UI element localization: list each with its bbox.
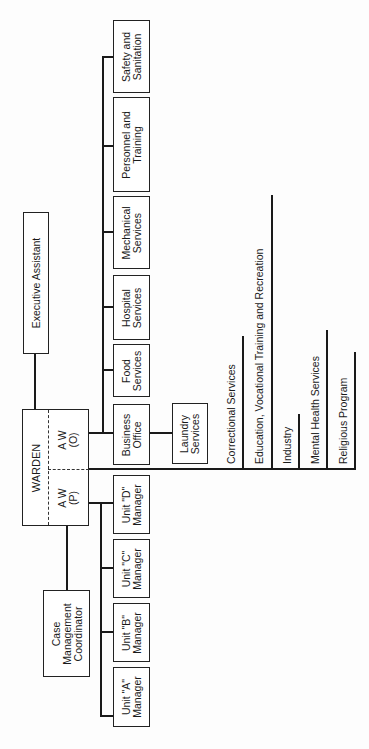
safety-sanitation-label: Safety and Sanitation: [121, 31, 143, 81]
unit-c-manager-box[interactable]: Unit "C" Manager: [113, 539, 150, 598]
aw-o-label: A W (O): [57, 430, 79, 449]
case-management-label: Case Management Coordinator: [50, 603, 83, 664]
mechanical-services-box[interactable]: Mechanical Services: [113, 196, 150, 269]
religious-line: [354, 352, 356, 470]
unit-c-label: Unit "C" Manager: [121, 548, 143, 589]
personnel-training-label: Personnel and Training: [121, 111, 143, 179]
unit-spine: [100, 502, 102, 717]
case-management-box[interactable]: Case Management Coordinator: [43, 590, 90, 677]
mental-health-line: [326, 330, 328, 470]
connector-exec: [34, 353, 36, 410]
hospital-services-label: Hospital Services: [121, 287, 143, 327]
executive-assistant-box[interactable]: Executive Assistant: [23, 212, 49, 354]
industry-label[interactable]: Industry: [282, 427, 293, 464]
business-office-box[interactable]: Business Office: [113, 404, 150, 465]
laundry-services-label: Laundry Services: [179, 413, 201, 453]
correctional-services-label[interactable]: Correctional Services: [226, 364, 237, 464]
laundry-services-box[interactable]: Laundry Services: [172, 403, 208, 464]
warden-box[interactable]: WARDEN A W (O) A W (P): [22, 409, 89, 526]
education-line: [271, 195, 273, 470]
connector-case: [66, 524, 68, 591]
warden-label: WARDEN: [31, 443, 42, 491]
connector-unit-b: [100, 631, 114, 633]
executive-assistant-label: Executive Assistant: [31, 238, 42, 328]
ops-spine: [102, 56, 104, 434]
unit-d-manager-box[interactable]: Unit "D" Manager: [113, 475, 150, 534]
safety-sanitation-box[interactable]: Safety and Sanitation: [113, 20, 150, 93]
unit-d-label: Unit "D" Manager: [121, 484, 143, 525]
food-services-box[interactable]: Food Services: [113, 344, 150, 397]
unit-b-label: Unit "B" Manager: [121, 612, 143, 653]
services-line: [88, 468, 356, 470]
connector-unit-c: [100, 567, 114, 569]
industry-line: [298, 414, 300, 470]
unit-a-manager-box[interactable]: Unit "A" Manager: [113, 667, 150, 727]
education-label[interactable]: Education, Vocational Training and Recre…: [254, 249, 265, 464]
connector-awo: [88, 432, 114, 434]
mental-health-label[interactable]: Mental Health Services: [310, 356, 321, 464]
aw-p-label: A W (P): [57, 488, 79, 507]
warden-divider: [48, 410, 49, 525]
mechanical-services-label: Mechanical Services: [121, 206, 143, 259]
correctional-line: [242, 336, 244, 470]
religious-program-label[interactable]: Religious Program: [338, 378, 349, 464]
unit-b-manager-box[interactable]: Unit "B" Manager: [113, 603, 150, 662]
business-office-label: Business Office: [121, 413, 143, 456]
connector-unit-a: [100, 715, 114, 717]
personnel-training-box[interactable]: Personnel and Training: [113, 97, 150, 192]
deputy-divider: [48, 469, 89, 470]
food-services-label: Food Services: [121, 350, 143, 390]
unit-a-label: Unit "A" Manager: [121, 676, 143, 717]
hospital-services-box[interactable]: Hospital Services: [113, 275, 150, 340]
connector-laundry: [149, 432, 173, 434]
